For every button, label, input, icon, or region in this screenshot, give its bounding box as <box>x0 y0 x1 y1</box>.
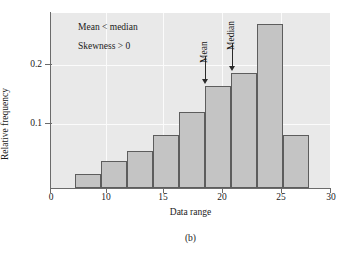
bar-bin-4 <box>153 135 179 188</box>
mean-pointer-label: Mean <box>199 41 209 63</box>
y-tick-0.2 <box>45 64 52 65</box>
figure-caption: (b) <box>51 233 330 243</box>
y-axis-title: Relative frequency <box>0 42 13 162</box>
annotation-skewness: Skewness > 0 <box>78 41 130 51</box>
bar-bin-8 <box>257 24 283 188</box>
bar-bin-5 <box>179 112 205 188</box>
x-axis-title: Data range <box>51 207 330 217</box>
x-tick-label-0: 0 <box>49 192 54 203</box>
annotation-mean-vs-median: Mean < median <box>78 22 138 32</box>
plot-area: Mean < median Skewness > 0 Mean Median <box>51 13 330 188</box>
bar-bin-3 <box>127 151 153 188</box>
bar-bin-1 <box>75 174 101 188</box>
bar-bin-7 <box>231 73 257 188</box>
bar-bin-6 <box>205 86 231 188</box>
y-tick-label-0.2: 0.2 <box>30 59 42 69</box>
y-axis-title-text: Relative frequency <box>0 147 10 160</box>
y-tick-0.1 <box>45 123 52 124</box>
x-axis-line <box>50 188 331 189</box>
bar-bin-9 <box>283 135 309 188</box>
figure-histogram-right-skewed: Mean < median Skewness > 0 Mean Median 0… <box>0 0 349 259</box>
x-tick-label-25: 25 <box>276 192 286 203</box>
x-tick-label-15: 15 <box>158 192 168 203</box>
gridline-y-0.2 <box>51 65 330 66</box>
bar-bin-2 <box>101 161 127 188</box>
median-arrow-head <box>229 66 235 71</box>
x-tick-label-20: 20 <box>217 192 227 203</box>
y-tick-label-0.1: 0.1 <box>30 118 42 128</box>
x-tick-label-10: 10 <box>101 192 111 203</box>
median-pointer-label: Median <box>226 21 236 50</box>
x-tick-label-30: 30 <box>326 192 336 203</box>
y-axis-line <box>50 12 51 189</box>
mean-arrow-head <box>202 79 208 84</box>
